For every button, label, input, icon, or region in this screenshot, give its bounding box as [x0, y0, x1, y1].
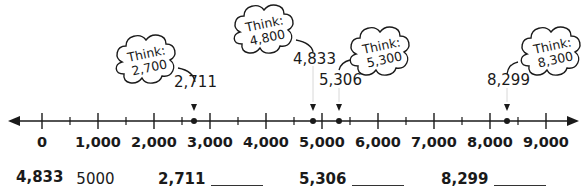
point-arrow-2711 [191, 104, 197, 111]
answer-number: 2,711 [158, 170, 205, 186]
tick-label-4000: 4,000 [243, 134, 289, 150]
point-dot-4833 [310, 118, 316, 124]
point-arrow-5306 [336, 104, 342, 111]
point-arrow-4833 [310, 104, 316, 111]
answer-number: 4,833 [16, 168, 63, 186]
point-dot-2711 [191, 118, 197, 124]
point-label-8299: 8,299 [487, 71, 530, 89]
tick-label-3000: 3,000 [187, 134, 233, 150]
tick-label-7000: 7,000 [411, 134, 457, 150]
point-label-5306: 5,306 [319, 71, 362, 89]
answer-blank[interactable]: 5000 [69, 172, 121, 186]
point-label-4833: 4,833 [293, 50, 336, 68]
point-dot-8299 [504, 118, 510, 124]
answer-number: 5,306 [299, 170, 346, 186]
tick-label-5000: 5,000 [299, 134, 345, 150]
tick-label-8000: 8,000 [467, 134, 513, 150]
left-arrow-icon [8, 116, 20, 126]
point-arrow-8299 [504, 104, 510, 111]
answer-item-8299: 8,299 [441, 168, 546, 186]
answer-blank[interactable] [211, 170, 263, 186]
answer-item-5306: 5,306 [299, 168, 404, 186]
answer-number: 8,299 [441, 170, 488, 186]
answer-item-4833: 4,8335000 [16, 168, 121, 186]
right-arrow-icon [567, 116, 579, 126]
answer-item-2711: 2,711 [158, 168, 263, 186]
number-line-graphic [0, 0, 587, 186]
tick-label-9000: 9,000 [523, 134, 569, 150]
tick-label-0: 0 [37, 134, 47, 150]
number-line-worksheet: Think: 2,700 Think: 4,800 Think: 5,300 T… [0, 0, 587, 186]
tick-label-2000: 2,000 [131, 134, 177, 150]
tick-label-6000: 6,000 [355, 134, 401, 150]
answer-blank[interactable] [494, 170, 546, 186]
answer-blank[interactable] [352, 170, 404, 186]
tick-label-1000: 1,000 [75, 134, 121, 150]
point-dot-5306 [336, 118, 342, 124]
point-label-2711: 2,711 [174, 73, 217, 91]
